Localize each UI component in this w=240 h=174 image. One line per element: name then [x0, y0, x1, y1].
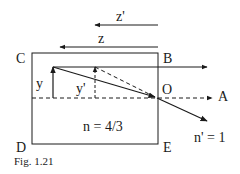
refracted-ray: [157, 98, 207, 121]
refractive-index-inside: n = 4/3: [83, 119, 123, 134]
refraction-diagram: z' z C B D E y y' O A n = 4/3 n' = 1 Fig…: [0, 0, 240, 174]
point-label-a: A: [218, 89, 229, 104]
figure-caption: Fig. 1.21: [14, 155, 53, 167]
corner-label-b: B: [163, 51, 172, 66]
corner-label-d: D: [16, 140, 26, 155]
corner-label-c: C: [16, 51, 25, 66]
corner-label-e: E: [163, 140, 172, 155]
z-label: z: [98, 31, 104, 46]
y-prime-label: y': [76, 81, 86, 96]
refractive-index-outside: n' = 1: [194, 130, 225, 145]
z-prime-label: z': [116, 9, 125, 24]
y-label: y: [36, 76, 43, 91]
point-label-o: O: [162, 82, 172, 97]
